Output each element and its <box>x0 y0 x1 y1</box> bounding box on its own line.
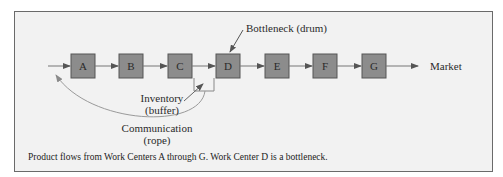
work-center-label: A <box>71 60 95 72</box>
work-center-label: C <box>168 60 192 72</box>
inventory-label: Inventory <box>130 92 194 104</box>
bottleneck-pointer-arrow <box>230 30 243 52</box>
work-center-label: F <box>313 60 337 72</box>
work-center-label: G <box>362 60 386 72</box>
bottleneck-label: Bottleneck (drum) <box>246 22 327 34</box>
buffer-label: (buffer) <box>130 104 194 116</box>
rope-label: (rope) <box>110 134 204 146</box>
market-label: Market <box>430 60 462 72</box>
work-center-label: B <box>119 60 143 72</box>
diagram-caption: Product flows from Work Centers A throug… <box>28 152 328 162</box>
work-center-label: D <box>216 60 240 72</box>
communication-label: Communication <box>110 122 204 134</box>
work-center-label: E <box>265 60 289 72</box>
